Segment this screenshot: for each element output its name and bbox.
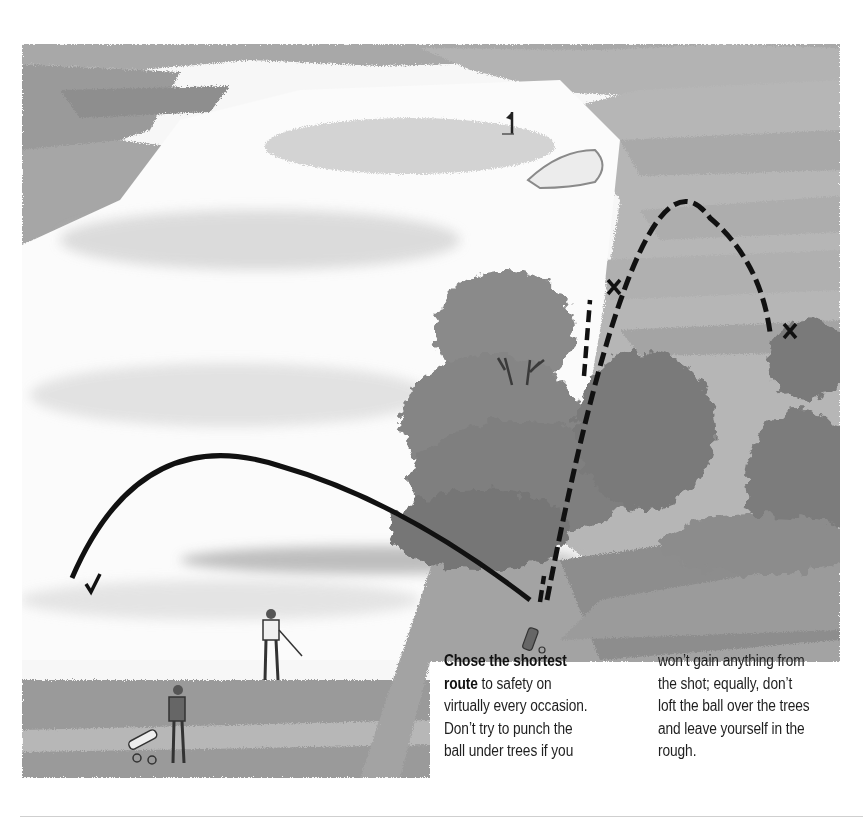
caption-line: Don’t try to punch the <box>444 718 620 741</box>
caption-line: ball under trees if you <box>444 740 620 763</box>
caption-line: loft the ball over the trees <box>658 695 843 718</box>
caption-line: rough. <box>658 740 843 763</box>
book-page: Chose the shortest route to safety on vi… <box>0 0 863 818</box>
caption-column-left: Chose the shortest route to safety on vi… <box>444 650 620 763</box>
caption-line: the shot; equally, don’t <box>658 673 843 696</box>
caption-line: Chose the shortest <box>444 650 620 673</box>
caption-column-right: won’t gain anything from the shot; equal… <box>658 650 843 763</box>
caption-line: route to safety on <box>444 673 620 696</box>
page-divider <box>20 816 863 817</box>
caption-line: won’t gain anything from <box>658 650 843 673</box>
caption: Chose the shortest route to safety on vi… <box>444 650 844 800</box>
caption-line: and leave yourself in the <box>658 718 843 741</box>
caption-line: virtually every occasion. <box>444 695 620 718</box>
